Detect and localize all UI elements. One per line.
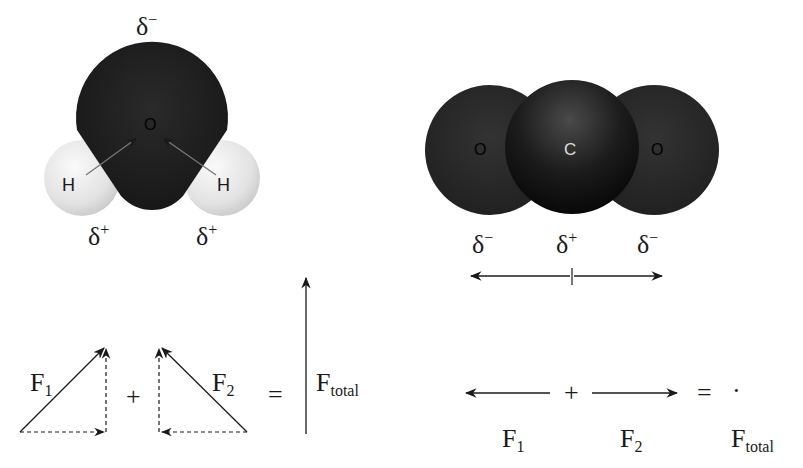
subscript: total xyxy=(745,438,773,455)
charge-sign: − xyxy=(649,229,658,246)
delta-symbol: δ xyxy=(136,12,148,41)
charge-sign: + xyxy=(100,221,109,238)
force-symbol: F xyxy=(212,368,226,397)
co2-oxygen-label-right: O xyxy=(651,142,663,158)
subscript: 2 xyxy=(226,382,234,399)
charge-sign: + xyxy=(208,221,217,238)
water-oxygen-label: O xyxy=(144,117,156,133)
subscript: 1 xyxy=(516,438,524,455)
co2-plus-sign: + xyxy=(564,380,579,406)
delta-symbol: δ xyxy=(556,230,568,259)
subscript: total xyxy=(330,382,358,399)
force-symbol: F xyxy=(316,368,330,397)
co2-ftotal-label: Ftotal xyxy=(731,426,774,455)
water-f2-label: F2 xyxy=(212,370,234,399)
delta-symbol: δ xyxy=(637,230,649,259)
charge-sign: + xyxy=(568,229,577,246)
water-f1-label: F1 xyxy=(30,370,52,399)
charge-sign: − xyxy=(484,229,493,246)
co2-f1-label: F1 xyxy=(502,426,524,455)
co2-charge-left: δ− xyxy=(472,230,493,258)
water-hydrogen-label-left: H xyxy=(62,176,75,194)
water-ftotal-label: Ftotal xyxy=(316,370,359,399)
co2-f2-label: F2 xyxy=(620,426,642,455)
co2-charge-right: δ− xyxy=(637,230,658,258)
co2-equals-sign: = xyxy=(697,380,712,406)
delta-symbol: δ xyxy=(472,230,484,259)
diagram-canvas xyxy=(0,0,803,468)
water-top-charge: δ− xyxy=(136,12,157,40)
water-hydrogen-charge-left: δ+ xyxy=(88,222,109,250)
co2-zero-dot: · xyxy=(732,378,741,404)
water-vector-sum xyxy=(20,278,306,434)
co2-carbon-label: C xyxy=(564,141,576,158)
water-hydrogen-charge-right: δ+ xyxy=(196,222,217,250)
delta-symbol: δ xyxy=(88,222,100,251)
water-equals-sign: = xyxy=(268,382,283,408)
water-hydrogen-label-right: H xyxy=(217,176,230,194)
force-symbol: F xyxy=(502,424,516,453)
delta-symbol: δ xyxy=(196,222,208,251)
charge-sign: − xyxy=(148,11,157,28)
force-symbol: F xyxy=(30,368,44,397)
force-symbol: F xyxy=(620,424,634,453)
co2-oxygen-label-left: O xyxy=(474,142,486,158)
co2-charge-center: δ+ xyxy=(556,230,577,258)
water-plus-sign: + xyxy=(126,384,141,410)
subscript: 1 xyxy=(44,382,52,399)
subscript: 2 xyxy=(634,438,642,455)
force-symbol: F xyxy=(731,424,745,453)
